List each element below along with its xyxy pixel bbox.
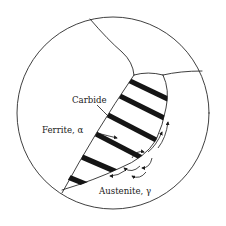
pearlite-growth-diagram: Carbide Ferrite, α Austenite, γ xyxy=(0,0,226,226)
label-carbide: Carbide xyxy=(72,95,107,105)
colony-top-boundary xyxy=(134,73,163,75)
grain-boundary-top xyxy=(90,19,134,75)
label-ferrite: Ferrite, α xyxy=(42,125,84,135)
field-of-view-circle xyxy=(17,17,209,209)
carbide-leader-line xyxy=(97,105,110,118)
label-austenite: Austenite, γ xyxy=(98,186,151,196)
grain-boundary-right xyxy=(163,71,202,75)
